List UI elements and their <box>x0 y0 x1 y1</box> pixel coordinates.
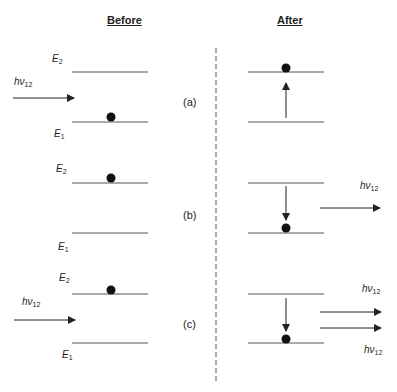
c-emitted-photon-label-2: hν12 <box>364 344 382 356</box>
a-before-electron <box>107 113 116 122</box>
b-emitted-photon-label: hν12 <box>360 180 378 192</box>
case-a-label: (a) <box>183 96 196 108</box>
before-header: Before <box>107 14 142 26</box>
a-e2-label: E2 <box>52 53 63 65</box>
c-photon-label: hν12 <box>22 296 40 308</box>
b-before-electron <box>107 174 116 183</box>
c-emitted-photon-label-1: hν12 <box>362 283 380 295</box>
a-photon-label: hν12 <box>14 76 32 88</box>
a-after-electron <box>282 64 291 73</box>
b-e1-label: E1 <box>58 241 69 253</box>
case-c-label: (c) <box>183 318 196 330</box>
case-b-label: (b) <box>183 209 196 221</box>
after-header: After <box>277 14 303 26</box>
b-after-electron <box>282 224 291 233</box>
c-before-electron <box>107 286 116 295</box>
a-e1-label: E1 <box>54 128 65 140</box>
c-e2-label: E2 <box>59 272 70 284</box>
c-after-electron <box>282 335 291 344</box>
c-e1-label: E1 <box>62 349 73 361</box>
b-e2-label: E2 <box>56 163 67 175</box>
